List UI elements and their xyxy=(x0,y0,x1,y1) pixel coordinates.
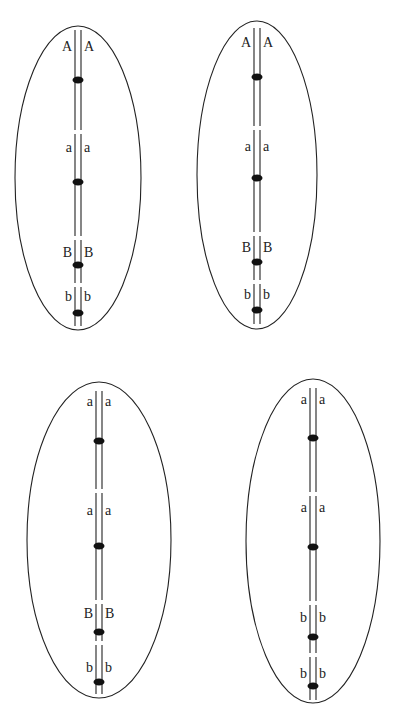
allele-label-right: a xyxy=(84,140,91,155)
cell: AAaaBBbb xyxy=(197,21,317,329)
allele-label-left: B xyxy=(84,606,93,621)
centromere-dot xyxy=(308,683,319,690)
allele-label-right: B xyxy=(263,240,272,255)
centromere-dot xyxy=(308,435,319,442)
cell: aaaaBBbb xyxy=(27,382,171,698)
centromere-dot xyxy=(94,679,105,686)
allele-label-left: b xyxy=(300,666,307,681)
allele-label-right: b xyxy=(319,610,326,625)
chromosome: AAaaBBbb xyxy=(62,30,95,326)
centromere-dot xyxy=(73,77,84,84)
allele-label-left: b xyxy=(244,287,251,302)
allele-label-left: b xyxy=(300,610,307,625)
allele-label-left: a xyxy=(301,392,308,407)
chromosome: aaaaBBbb xyxy=(84,391,115,694)
allele-label-right: b xyxy=(84,289,91,304)
allele-label-left: a xyxy=(66,140,73,155)
centromere-dot xyxy=(73,179,84,186)
allele-label-left: a xyxy=(245,139,252,154)
allele-label-left: a xyxy=(87,503,94,518)
allele-label-right: A xyxy=(84,39,95,54)
allele-label-left: b xyxy=(65,289,72,304)
chromosome: AAaaBBbb xyxy=(241,28,274,324)
centromere-dot xyxy=(308,634,319,641)
allele-label-left: A xyxy=(241,35,252,50)
cell: aaaabbbb xyxy=(246,379,380,703)
centromere-dot xyxy=(252,175,263,182)
centromere-dot xyxy=(94,543,105,550)
allele-label-right: a xyxy=(319,500,326,515)
centromere-dot xyxy=(252,74,263,81)
allele-label-right: b xyxy=(263,287,270,302)
allele-label-left: a xyxy=(87,394,94,409)
allele-label-right: B xyxy=(105,606,114,621)
allele-label-right: a xyxy=(319,392,326,407)
genetics-cell-diagram: AAaaBBbbAAaaBBbbaaaaBBbbaaaabbbb xyxy=(0,0,397,711)
allele-label-right: A xyxy=(263,35,274,50)
allele-label-left: B xyxy=(63,245,72,260)
cell-membrane xyxy=(15,26,141,330)
centromere-dot xyxy=(73,262,84,269)
allele-label-right: b xyxy=(319,666,326,681)
allele-label-right: B xyxy=(84,245,93,260)
allele-label-left: a xyxy=(301,500,308,515)
cell: AAaaBBbb xyxy=(15,26,141,330)
allele-label-left: B xyxy=(242,240,251,255)
cell-membrane xyxy=(27,382,171,698)
chromosome: aaaabbbb xyxy=(300,388,326,700)
allele-label-right: a xyxy=(263,139,270,154)
allele-label-left: A xyxy=(62,39,73,54)
cell-membrane xyxy=(246,379,380,703)
allele-label-right: b xyxy=(105,660,112,675)
allele-label-left: b xyxy=(86,660,93,675)
centromere-dot xyxy=(252,307,263,314)
centromere-dot xyxy=(94,629,105,636)
allele-label-right: a xyxy=(105,394,112,409)
allele-label-right: a xyxy=(105,503,112,518)
centromere-dot xyxy=(252,259,263,266)
centromere-dot xyxy=(94,438,105,445)
centromere-dot xyxy=(73,310,84,317)
centromere-dot xyxy=(308,544,319,551)
